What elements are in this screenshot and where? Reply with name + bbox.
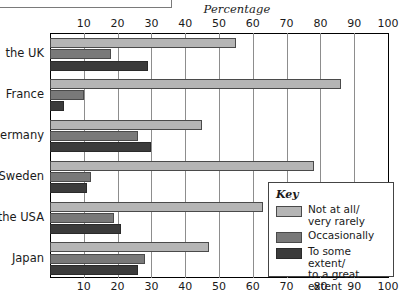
bar-japan-series-1 [50, 254, 145, 264]
tick-label-40: 40 [178, 17, 192, 30]
bar-the-uk-series-0 [50, 38, 236, 48]
bar-row [50, 115, 388, 156]
axis-title-label: Percentage [204, 2, 271, 16]
bar-germany-series-0 [50, 120, 202, 130]
tick-label-50: 50 [212, 17, 226, 30]
bar-france-series-2 [50, 101, 64, 111]
axis-title: Percentage [0, 2, 410, 16]
category-label-japan: Japan [0, 251, 44, 265]
bar-the-uk-series-2 [50, 61, 148, 71]
bar-japan-series-0 [50, 242, 209, 252]
bar-the-uk-series-1 [50, 49, 111, 59]
tick-label-30: 30 [144, 280, 158, 293]
tick-label-80: 80 [313, 17, 327, 30]
bar-france-series-0 [50, 79, 341, 89]
tick-label-100: 100 [378, 17, 399, 30]
tick-label-60: 60 [246, 280, 260, 293]
tick-label-60: 60 [246, 17, 260, 30]
tick-label-70: 70 [280, 17, 294, 30]
legend-swatch-2 [276, 248, 302, 259]
bar-japan-series-2 [50, 265, 138, 275]
category-label-sweden: Sweden [0, 169, 44, 183]
legend-swatch-1 [276, 232, 302, 243]
category-label-the-uk: the UK [0, 46, 44, 60]
legend-label-2: To some extent/ to a great extent [308, 246, 388, 292]
legend-title: Key [276, 188, 388, 201]
tick-label-40: 40 [178, 280, 192, 293]
tick-label-90: 90 [347, 17, 361, 30]
legend-items: Not at all/ very rarelyOccasionallyTo so… [276, 204, 388, 292]
legend-item-0: Not at all/ very rarely [276, 204, 388, 227]
tick-label-10: 10 [77, 17, 91, 30]
category-label-germany: Germany [0, 128, 44, 142]
bar-germany-series-2 [50, 142, 151, 152]
tick-label-30: 30 [144, 17, 158, 30]
legend-item-1: Occasionally [276, 230, 388, 243]
bar-france-series-1 [50, 90, 84, 100]
legend-swatch-0 [276, 206, 302, 217]
bar-row [50, 33, 388, 74]
legend-item-2: To some extent/ to a great extent [276, 246, 388, 292]
tick-label-20: 20 [111, 17, 125, 30]
legend-label-1: Occasionally [308, 230, 374, 242]
tick-label-10: 10 [77, 280, 91, 293]
bar-the-usa-series-0 [50, 202, 263, 212]
bar-the-usa-series-1 [50, 213, 114, 223]
x-axis-ticks-top: 102030405060708090100 [50, 17, 388, 31]
bar-sweden-series-0 [50, 161, 314, 171]
tick-label-20: 20 [111, 280, 125, 293]
bar-sweden-series-2 [50, 183, 87, 193]
category-label-france: France [0, 87, 44, 101]
bar-germany-series-1 [50, 131, 138, 141]
bar-sweden-series-1 [50, 172, 91, 182]
category-label-the-usa: the USA [0, 210, 44, 224]
bar-row [50, 74, 388, 115]
legend-label-0: Not at all/ very rarely [308, 204, 365, 227]
legend-box: Key Not at all/ very rarelyOccasionallyT… [268, 182, 394, 277]
bar-the-usa-series-2 [50, 224, 121, 234]
tick-label-50: 50 [212, 280, 226, 293]
